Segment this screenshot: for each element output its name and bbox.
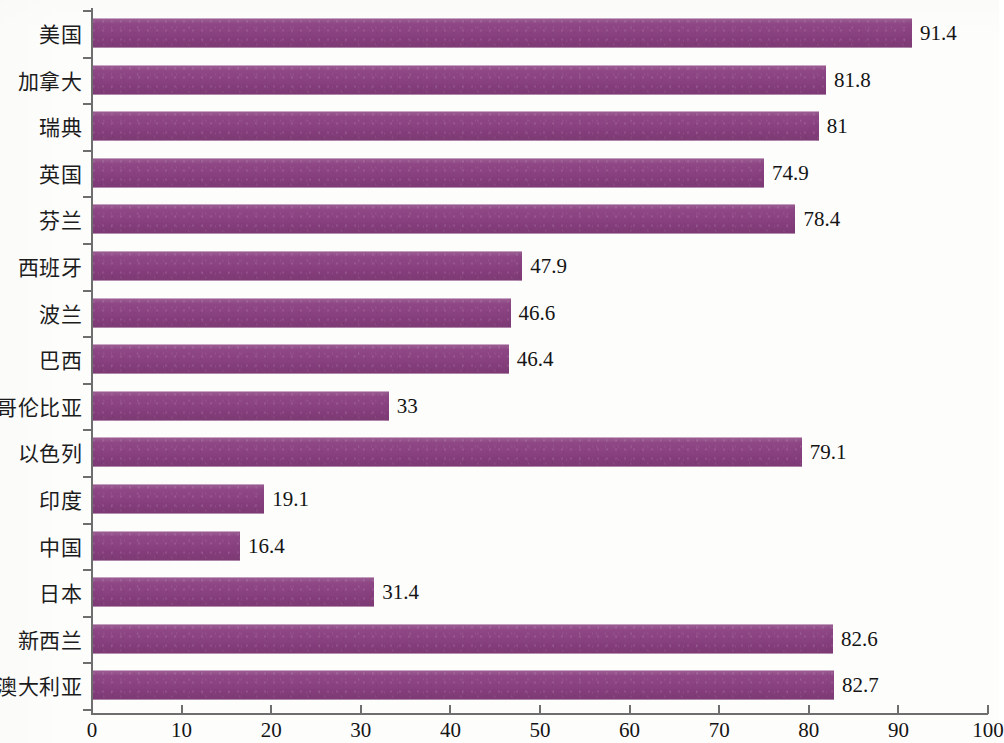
x-axis-tick-label: 40 xyxy=(440,718,461,743)
x-axis-tick xyxy=(449,705,451,714)
x-axis-tick xyxy=(91,705,93,714)
x-axis-tick xyxy=(181,705,183,714)
x-axis-tick-label: 100 xyxy=(972,718,1004,743)
x-axis-tick-label: 20 xyxy=(261,718,282,743)
x-axis-tick xyxy=(987,705,989,714)
x-axis-tick-label: 70 xyxy=(709,718,730,743)
x-axis-tick xyxy=(360,705,362,714)
x-axis-tick xyxy=(718,705,720,714)
x-axis-tick-label: 10 xyxy=(171,718,192,743)
x-axis-tick xyxy=(629,705,631,714)
x-axis-tick-label: 30 xyxy=(350,718,371,743)
x-axis-tick-label: 80 xyxy=(798,718,819,743)
x-axis-tick-label: 90 xyxy=(888,718,909,743)
x-axis-tick xyxy=(808,705,810,714)
x-axis-tick xyxy=(270,705,272,714)
x-axis-tick-label: 60 xyxy=(619,718,640,743)
x-axis-tick-label: 0 xyxy=(87,718,98,743)
x-axis-tick xyxy=(539,705,541,714)
x-axis-tick xyxy=(897,705,899,714)
x-axis-tick-label: 50 xyxy=(530,718,551,743)
